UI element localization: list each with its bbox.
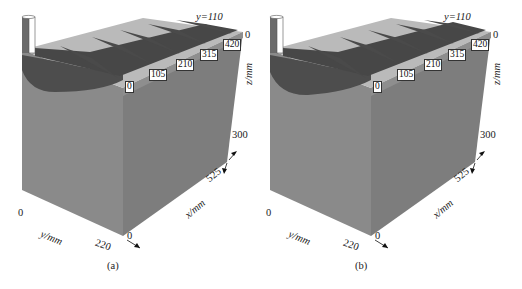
box-3d-diagram-a <box>0 0 261 289</box>
box-3d-diagram-b <box>248 0 509 289</box>
inlet-tube-top <box>270 15 283 18</box>
z-min-label: 0 <box>493 30 498 41</box>
y-plane-label: y=110 <box>196 12 223 23</box>
y-min-label: 0 <box>18 208 23 219</box>
section-label-420: 420 <box>471 39 489 51</box>
inlet-tube-light <box>277 17 283 53</box>
z-axis-arrowhead <box>479 151 485 156</box>
x-min-label: 0 <box>127 231 132 242</box>
x-min-label: 0 <box>375 231 380 242</box>
section-label-210: 210 <box>176 59 194 71</box>
section-label-105: 105 <box>149 69 167 81</box>
inlet-tube-light <box>29 17 35 53</box>
panel-caption-b: (b) <box>355 260 367 271</box>
section-label-105: 105 <box>397 69 415 81</box>
section-label-315: 315 <box>200 49 218 61</box>
x-axis-arrowhead <box>134 243 140 248</box>
section-label-210: 210 <box>424 59 442 71</box>
z-axis-label: z/mm <box>492 63 503 85</box>
z-axis-arrowhead <box>231 151 237 156</box>
y-min-label: 0 <box>266 208 271 219</box>
inlet-tube-top <box>22 15 35 18</box>
panel-a: y=110 0 420 315 210 105 0 z/mm 300 525 x… <box>0 0 261 289</box>
section-label-420: 420 <box>223 39 241 51</box>
z-max-label: 300 <box>480 130 496 141</box>
panel-caption-a: (a) <box>107 260 119 271</box>
section-label-0: 0 <box>125 81 134 93</box>
z-max-label: 300 <box>232 130 248 141</box>
section-label-0: 0 <box>373 81 382 93</box>
inlet-tube-dark <box>270 17 277 53</box>
inlet-tube-dark <box>22 17 29 53</box>
y-plane-label: y=110 <box>444 12 471 23</box>
panel-b: y=110 0 420 315 210 105 0 z/mm 300 525 x… <box>248 0 509 289</box>
x-axis-arrowhead <box>382 243 388 248</box>
section-label-315: 315 <box>448 49 466 61</box>
